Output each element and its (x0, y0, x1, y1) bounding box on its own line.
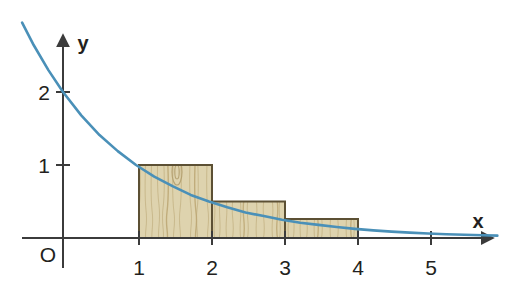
x-axis-label: x (472, 210, 483, 232)
y-axis-label: y (77, 32, 89, 54)
riemann-sum-figure: 1 2 3 4 5 x 1 2 y O (0, 0, 518, 286)
origin-label: O (40, 243, 56, 266)
riemann-rectangle-1 (139, 165, 212, 238)
riemann-rectangles (139, 165, 358, 238)
x-tick-label-1: 1 (133, 256, 145, 279)
y-tick-label-2: 2 (38, 81, 50, 104)
bar-interval-1-2 (139, 165, 212, 238)
y-tick-label-1: 1 (38, 154, 50, 177)
x-tick-label-3: 3 (279, 256, 291, 279)
x-tick-label-4: 4 (352, 256, 364, 279)
figure-canvas: 1 2 3 4 5 x 1 2 y O (0, 0, 518, 286)
x-tick-label-2: 2 (206, 256, 218, 279)
x-tick-label-5: 5 (425, 256, 437, 279)
